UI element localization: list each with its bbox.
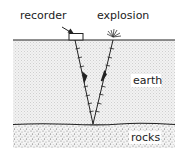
explosion-burst-icon xyxy=(107,29,121,37)
earth-label: earth xyxy=(133,74,162,87)
rocks-label: rocks xyxy=(131,131,160,144)
explosion-label: explosion xyxy=(97,9,149,22)
recorder-label: recorder xyxy=(20,9,67,22)
recorder-pointer-arrow-icon xyxy=(62,27,74,34)
seismic-diagram: recorder explosion earth rocks xyxy=(0,0,186,152)
recorder-box xyxy=(69,34,83,41)
